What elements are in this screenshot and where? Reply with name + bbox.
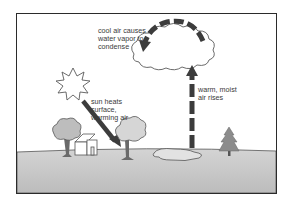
warm-air-label: warm, moist air rises xyxy=(198,86,237,102)
rising-air-arrow xyxy=(186,65,198,148)
sun-icon xyxy=(56,68,90,100)
ground xyxy=(17,149,276,193)
cool-air-label: cool air causes water vapor to condense xyxy=(98,27,146,51)
sun-heats-label: sun heats surface, warming air xyxy=(91,98,128,122)
diagram-scene xyxy=(17,14,276,193)
diagram-frame: cool air causes water vapor to condense … xyxy=(16,13,277,194)
